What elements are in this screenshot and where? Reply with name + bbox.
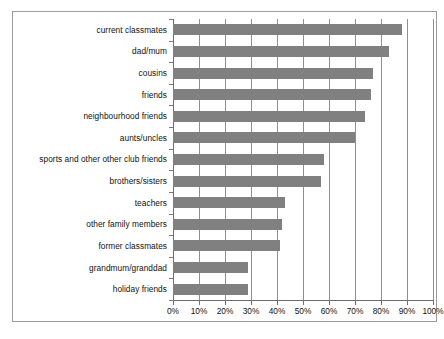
x-axis-tick-label: 10%: [191, 306, 208, 316]
bar-row: [173, 192, 433, 214]
category-label: friends: [13, 84, 172, 106]
x-axis-tick: [329, 301, 330, 305]
bar-row: [173, 41, 433, 63]
category-label: holiday friends: [13, 278, 172, 300]
bar: [173, 176, 321, 187]
x-axis-tick-label: 70%: [347, 306, 364, 316]
category-label: former classmates: [13, 235, 172, 257]
bar-series: [173, 19, 433, 300]
category-label: cousins: [13, 62, 172, 84]
bar-row: [173, 149, 433, 171]
x-axis-tick-label: 90%: [399, 306, 416, 316]
category-label: teachers: [13, 192, 172, 214]
bar-row: [173, 127, 433, 149]
bar-row: [173, 278, 433, 300]
bar: [173, 111, 365, 122]
x-axis-tick: [433, 301, 434, 305]
plot-area: [173, 19, 433, 300]
x-axis-tick: [303, 301, 304, 305]
x-axis-tick-label: 50%: [295, 306, 312, 316]
x-axis-tick: [381, 301, 382, 305]
x-axis-tick-label: 100%: [422, 306, 443, 316]
x-axis-tick-label: 20%: [217, 306, 234, 316]
plot-wrapper: current classmatesdad/mumcousinsfriendsn…: [13, 12, 436, 321]
bar-row: [173, 19, 433, 41]
x-axis-tick: [199, 301, 200, 305]
bar: [173, 197, 285, 208]
x-axis-tick-label: 0%: [167, 306, 179, 316]
x-axis-ticks: [173, 301, 434, 305]
x-axis-tick-labels: 0%10%20%30%40%50%60%70%80%90%100%: [173, 306, 434, 320]
x-axis-tick-label: 80%: [373, 306, 390, 316]
bar: [173, 219, 282, 230]
bar-row: [173, 235, 433, 257]
bar: [173, 154, 324, 165]
x-axis-tick: [407, 301, 408, 305]
bar-row: [173, 84, 433, 106]
category-label: brothers/sisters: [13, 170, 172, 192]
x-axis-tick-label: 30%: [243, 306, 260, 316]
category-label: other family members: [13, 213, 172, 235]
x-axis-tick: [251, 301, 252, 305]
bar: [173, 46, 389, 57]
x-axis-tick: [277, 301, 278, 305]
x-axis-tick-label: 60%: [321, 306, 338, 316]
bar: [173, 262, 248, 273]
bar: [173, 284, 248, 295]
bar: [173, 68, 373, 79]
x-axis-tick: [225, 301, 226, 305]
category-label: dad/mum: [13, 41, 172, 63]
category-label: neighbourhood friends: [13, 105, 172, 127]
category-label: aunts/uncles: [13, 127, 172, 149]
category-label: grandmum/granddad: [13, 257, 172, 279]
category-label: sports and other other club friends: [13, 149, 172, 171]
bar: [173, 240, 280, 251]
category-label: current classmates: [13, 19, 172, 41]
x-axis-tick: [173, 301, 174, 305]
bar-row: [173, 257, 433, 279]
x-axis-tick: [355, 301, 356, 305]
bar: [173, 132, 355, 143]
gridline: [433, 19, 434, 300]
bar: [173, 24, 402, 35]
x-axis-tick-label: 40%: [269, 306, 286, 316]
bar-row: [173, 105, 433, 127]
chart-frame: current classmatesdad/mumcousinsfriendsn…: [12, 11, 437, 322]
bar-row: [173, 62, 433, 84]
category-axis-labels: current classmatesdad/mumcousinsfriendsn…: [13, 19, 172, 300]
bar-row: [173, 170, 433, 192]
bar-row: [173, 213, 433, 235]
bar: [173, 89, 371, 100]
